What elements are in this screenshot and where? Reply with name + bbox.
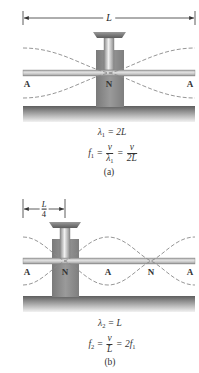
wavelength-equation-b: λ2 = L	[98, 319, 122, 330]
quarter-length-label: L 4	[40, 200, 49, 219]
wavelength-equation-a: λ1 = 2L	[98, 128, 127, 139]
panel-b-graphics	[23, 199, 195, 312]
frequency-equation-a: f1 = vλ1 = v2L	[88, 143, 138, 165]
antinode-label: A	[105, 268, 112, 277]
clamp-cap	[93, 32, 126, 38]
antinode-label: A	[187, 268, 194, 277]
antinode-label: A	[187, 80, 194, 89]
caption-a: (a)	[104, 168, 115, 178]
fraction-v-over-L: vL	[107, 334, 113, 355]
clamp-stem	[60, 228, 70, 260]
equation-rhs: = 2f	[114, 339, 133, 349]
base-platform	[23, 296, 195, 312]
fraction-v-over-lambda1: vλ1	[106, 143, 113, 165]
equals-sign: =	[115, 148, 126, 158]
antinode-label: A	[24, 268, 31, 277]
clamp-cap	[49, 222, 81, 228]
antinode-label: A	[24, 80, 31, 89]
caption-b: (b)	[104, 358, 115, 368]
rod	[23, 258, 195, 264]
base-platform	[23, 106, 195, 122]
frequency-equation-b: f2 = vL = 2f1	[88, 334, 135, 355]
node-label: N	[148, 268, 155, 277]
node-label: N	[62, 268, 69, 277]
node-label: N	[106, 80, 113, 89]
clamp-stem	[104, 38, 114, 70]
subscript: 1	[132, 343, 135, 350]
fraction-v-over-2L: v2L	[127, 143, 137, 164]
length-label: L	[103, 13, 115, 23]
equation-rhs: = L	[105, 318, 121, 328]
equals-sign: =	[94, 148, 105, 158]
equals-sign: =	[94, 339, 105, 349]
panel-a-graphics	[23, 11, 195, 122]
equation-rhs: = 2L	[105, 127, 126, 137]
